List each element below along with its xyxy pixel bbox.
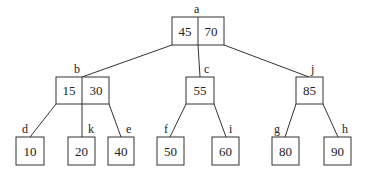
node-label-e: e <box>126 122 131 136</box>
edge-j-h <box>323 104 338 137</box>
node-i: i 60 <box>212 122 239 165</box>
node-a: a 45 70 <box>172 2 224 45</box>
node-key: 60 <box>219 144 232 159</box>
edge-a-c <box>198 45 200 77</box>
node-key: 90 <box>331 144 344 159</box>
node-label-f: f <box>164 122 168 136</box>
node-e: e 40 <box>108 122 134 165</box>
node-key: 55 <box>194 83 207 98</box>
node-key: 10 <box>24 144 37 159</box>
node-label-j: j <box>310 62 314 76</box>
node-c: c 55 <box>186 62 214 104</box>
edge-b-d <box>30 104 56 137</box>
node-label-k: k <box>88 122 94 136</box>
node-label-c: c <box>204 62 209 76</box>
node-label-a: a <box>194 2 200 16</box>
edge-a-j <box>224 45 309 77</box>
b-tree-diagram: a 45 70 b 15 30 c 55 j 85 d 10 k 20 e 40 <box>0 0 365 176</box>
node-d: d 10 <box>16 122 44 165</box>
node-h: h 90 <box>324 122 351 165</box>
edge-b-e <box>109 104 121 137</box>
node-b: b 15 30 <box>56 62 109 104</box>
node-key: 30 <box>90 83 103 98</box>
node-f: f 50 <box>157 122 184 165</box>
node-key: 40 <box>115 144 128 159</box>
node-key: 45 <box>179 24 192 39</box>
edge-c-f <box>170 104 186 137</box>
node-key: 50 <box>164 144 177 159</box>
node-label-h: h <box>342 122 348 136</box>
node-key: 70 <box>205 24 218 39</box>
node-g: g 80 <box>272 122 299 165</box>
node-key: 15 <box>63 83 76 98</box>
edge-a-b <box>82 45 172 77</box>
node-j: j 85 <box>296 62 323 104</box>
node-label-i: i <box>229 122 233 136</box>
node-key: 80 <box>279 144 292 159</box>
node-label-b: b <box>74 62 80 76</box>
node-key: 85 <box>303 83 316 98</box>
edge-j-g <box>285 104 296 137</box>
node-label-g: g <box>274 122 280 136</box>
node-label-d: d <box>22 122 28 136</box>
edge-c-i <box>214 104 226 137</box>
node-key: 20 <box>75 144 88 159</box>
